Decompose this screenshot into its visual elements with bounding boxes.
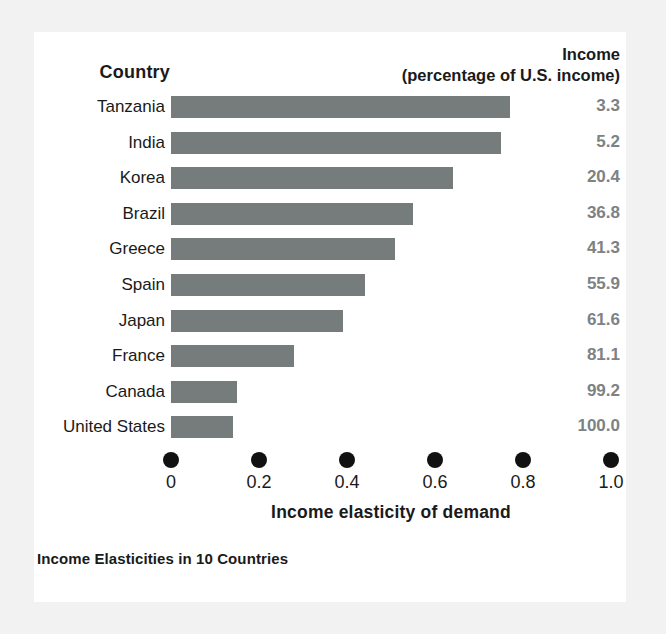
x-axis-tick-label: 0.8	[493, 472, 553, 493]
bar	[171, 381, 237, 403]
tick-dot-icon	[251, 452, 267, 468]
chart-row: Korea20.4	[34, 165, 626, 201]
row-value-income: 36.8	[500, 203, 620, 223]
row-label-country: Brazil	[34, 204, 165, 224]
chart-row: Japan61.6	[34, 308, 626, 344]
tick-dot-icon	[427, 452, 443, 468]
chart-row: France81.1	[34, 343, 626, 379]
chart-row: Greece41.3	[34, 236, 626, 272]
row-label-country: Spain	[34, 275, 165, 295]
chart-row: United States100.0	[34, 414, 626, 450]
bar	[171, 203, 413, 225]
bar	[171, 96, 510, 118]
bar	[171, 310, 343, 332]
row-value-income: 81.1	[500, 345, 620, 365]
row-label-country: India	[34, 133, 165, 153]
row-value-income: 20.4	[500, 167, 620, 187]
chart-row: Tanzania3.3	[34, 94, 626, 130]
tick-dot-icon	[339, 452, 355, 468]
tick-dot-icon	[603, 452, 619, 468]
chart-row: Brazil36.8	[34, 201, 626, 237]
bar	[171, 238, 395, 260]
row-value-income: 55.9	[500, 274, 620, 294]
row-label-country: Tanzania	[34, 97, 165, 117]
bar	[171, 167, 453, 189]
chart-row: India5.2	[34, 130, 626, 166]
row-value-income: 99.2	[500, 381, 620, 401]
row-value-income: 41.3	[500, 238, 620, 258]
column-header-income: Income (percentage of U.S. income)	[290, 44, 620, 86]
row-label-country: France	[34, 346, 165, 366]
row-value-income: 61.6	[500, 310, 620, 330]
bar	[171, 345, 294, 367]
row-value-income: 100.0	[500, 416, 620, 436]
x-axis-tick-label: 0	[141, 472, 201, 493]
tick-dot-icon	[163, 452, 179, 468]
column-header-income-sublabel: (percentage of U.S. income)	[290, 65, 620, 86]
x-axis-tick-label: 0.2	[229, 472, 289, 493]
bar	[171, 274, 365, 296]
chart-page: Country Income (percentage of U.S. incom…	[0, 0, 666, 634]
row-label-country: Japan	[34, 311, 165, 331]
x-axis-title: Income elasticity of demand	[171, 502, 611, 523]
column-header-income-line1: Income	[290, 44, 620, 65]
row-label-country: Canada	[34, 382, 165, 402]
row-value-income: 5.2	[500, 132, 620, 152]
tick-dot-icon	[515, 452, 531, 468]
bar	[171, 416, 233, 438]
row-label-country: Korea	[34, 168, 165, 188]
x-axis-tick-label: 0.6	[405, 472, 465, 493]
chart-caption: Income Elasticities in 10 Countries	[37, 550, 288, 567]
chart-card: Country Income (percentage of U.S. incom…	[34, 32, 626, 602]
row-label-country: United States	[34, 417, 165, 437]
x-axis-tick-label: 0.4	[317, 472, 377, 493]
chart-rows: Tanzania3.3India5.2Korea20.4Brazil36.8Gr…	[34, 94, 626, 450]
chart-row: Spain55.9	[34, 272, 626, 308]
bar	[171, 132, 501, 154]
chart-row: Canada99.2	[34, 379, 626, 415]
column-header-country: Country	[34, 62, 170, 83]
row-label-country: Greece	[34, 239, 165, 259]
x-axis-tick-label: 1.0	[581, 472, 641, 493]
row-value-income: 3.3	[500, 96, 620, 116]
